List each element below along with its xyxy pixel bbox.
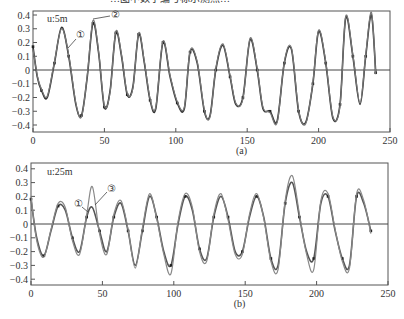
callout-leader	[68, 39, 76, 48]
x-tick-label: 50	[97, 288, 107, 299]
y-tick-label: 0.2	[18, 37, 31, 48]
callout-label: ②	[111, 9, 120, 20]
figure: …图中数字编号标示测点… 0.40.30.20.10−0.1−0.2−0.3−0…	[0, 0, 404, 319]
y-tick-label: 0.1	[16, 205, 29, 216]
callout-label: ①	[76, 29, 85, 40]
data-point-marker	[170, 264, 173, 267]
x-tick-label: 0	[31, 135, 36, 146]
x-tick-label: 200	[309, 288, 324, 299]
y-tick-label: 0.2	[16, 191, 29, 202]
top-text-fragment: …图中数字编号标示测点…	[110, 0, 230, 4]
y-tick-label: −0.1	[10, 232, 28, 243]
x-tick-label: 250	[383, 135, 398, 146]
panel-annotation: u:5m	[47, 13, 68, 24]
y-tick-label: 0.1	[18, 51, 31, 62]
y-tick-label: 0.4	[18, 10, 31, 21]
data-point-marker	[32, 45, 35, 48]
x-tick-label: 100	[168, 135, 183, 146]
callout-leader	[95, 192, 107, 205]
series-line-2	[31, 175, 371, 274]
x-tick-label: 250	[381, 288, 396, 299]
chart-panel-a: 0.40.30.20.10−0.1−0.2−0.3−0.405010015020…	[12, 9, 398, 157]
y-tick-label: −0.2	[12, 92, 30, 103]
panel-label: (a)	[236, 145, 247, 157]
y-tick-label: −0.4	[10, 274, 28, 285]
callout-label: ③	[107, 183, 116, 194]
y-tick-label: −0.3	[12, 106, 30, 117]
y-tick-label: −0.4	[12, 120, 30, 131]
panel-label: (b)	[234, 298, 246, 310]
callout-label: ①	[74, 198, 83, 209]
y-tick-label: 0.3	[18, 23, 31, 34]
x-tick-label: 0	[29, 288, 34, 299]
y-tick-label: 0	[23, 219, 28, 230]
x-tick-label: 50	[99, 135, 109, 146]
panel-annotation: u:25m	[47, 166, 73, 177]
y-tick-label: 0	[25, 65, 30, 76]
callout-leader	[93, 16, 110, 19]
y-tick-label: −0.2	[10, 246, 28, 257]
y-tick-label: 0.3	[16, 177, 29, 188]
y-tick-label: 0.4	[16, 163, 29, 174]
x-tick-label: 200	[311, 135, 326, 146]
y-tick-label: −0.1	[12, 78, 30, 89]
y-tick-label: −0.3	[10, 260, 28, 271]
plot-frame	[33, 11, 390, 132]
x-tick-label: 100	[166, 288, 181, 299]
chart-panel-b: 0.40.30.20.10−0.1−0.2−0.3−0.405010015020…	[10, 163, 396, 310]
